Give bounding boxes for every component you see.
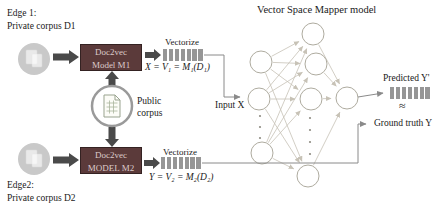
edge1-to-m1-arrow: [53, 50, 79, 64]
edge1-line1: Edge 1:: [7, 8, 36, 18]
edge1-label: Edge 1:Private corpus D1: [7, 7, 76, 33]
output-wire: [358, 93, 383, 97]
m2-line2: MODEL M2: [88, 163, 134, 173]
y-vector-bar: [161, 157, 202, 169]
diagram-canvas: Edge 1:Private corpus D1 Edge2:Private c…: [0, 0, 448, 210]
input-x-label: Input X: [215, 99, 244, 112]
edge1-line2: Private corpus D1: [7, 21, 76, 31]
diagram-title: Vector Space Mapper model: [257, 3, 376, 16]
formula-x: X = V₁ = M₁(D₁): [145, 61, 210, 74]
x-vector-bar: [163, 49, 204, 61]
public-to-m1-arrow: [105, 71, 119, 86]
m1-line1: Doc2vec: [95, 47, 127, 57]
public-corpus-label: Public corpus: [137, 95, 179, 119]
m2-line1: Doc2vec: [95, 150, 127, 160]
ground-truth-y-label: Ground truth Y: [374, 117, 432, 130]
approx-symbol: ≈: [399, 100, 406, 113]
edge2-to-m2-arrow: [53, 153, 79, 167]
edge2-line2: Private corpus D2: [7, 193, 76, 203]
doc2vec-model-m1-box: Doc2vecModel M1: [80, 44, 142, 71]
public-corpus-icon: [92, 86, 132, 126]
predicted-y-vector-bar: [390, 87, 431, 99]
formula-y: Y = V₂ = M₂(D₂): [149, 171, 213, 184]
edge2-line1: Edge2:: [7, 180, 34, 190]
predicted-y-label: Predicted Y': [383, 72, 429, 85]
vectorize-top-label: Vectorize: [165, 36, 199, 49]
neural-network: [248, 23, 358, 187]
edge1-corpus-icon: [18, 43, 50, 75]
edge2-label: Edge2:Private corpus D2: [7, 179, 76, 205]
public-to-m2-arrow: [105, 127, 119, 147]
m2-to-vector-arrow: [144, 157, 160, 169]
m1-line2: Model M1: [92, 60, 130, 70]
doc2vec-model-m2-box: Doc2vecMODEL M2: [80, 147, 142, 174]
y-ground-truth-wire: [202, 124, 366, 163]
edge2-corpus-icon: [18, 143, 50, 175]
m1-to-vector-arrow: [145, 49, 161, 61]
